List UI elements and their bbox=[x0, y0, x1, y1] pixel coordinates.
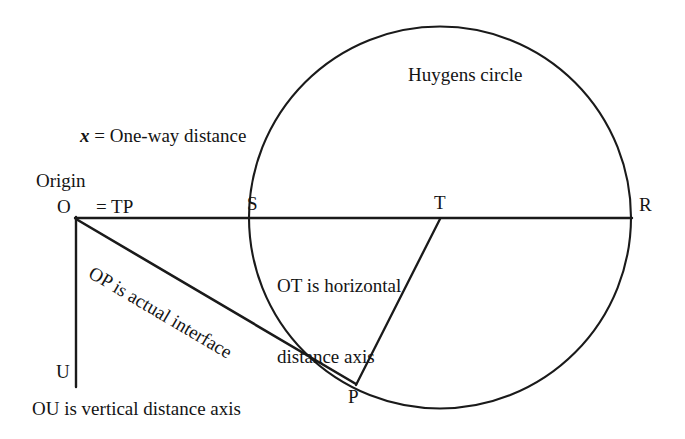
origin-label: Origin bbox=[36, 170, 86, 192]
variable-x: x bbox=[80, 125, 90, 146]
one-way-distance-line-1: x = One-way distance bbox=[80, 124, 246, 148]
point-label-u: U bbox=[56, 361, 70, 383]
point-label-t: T bbox=[434, 192, 446, 214]
point-label-o: O bbox=[57, 196, 71, 218]
figure-canvas: x = One-way distance = TP Huygens circle… bbox=[0, 0, 685, 439]
point-label-s: S bbox=[247, 193, 258, 215]
horizontal-axis-line-2: distance axis bbox=[277, 345, 401, 369]
vertical-axis-annotation: OU is vertical distance axis bbox=[32, 398, 241, 420]
one-way-distance-annotation: x = One-way distance = TP bbox=[80, 76, 246, 266]
one-way-distance-text: = One-way distance bbox=[90, 125, 247, 146]
huygens-circle-label: Huygens circle bbox=[408, 64, 522, 86]
horizontal-axis-annotation: OT is horizontal distance axis bbox=[277, 226, 401, 416]
horizontal-axis-line-1: OT is horizontal bbox=[277, 274, 401, 298]
point-label-r: R bbox=[639, 194, 652, 216]
one-way-distance-line-2: = TP bbox=[80, 195, 246, 219]
